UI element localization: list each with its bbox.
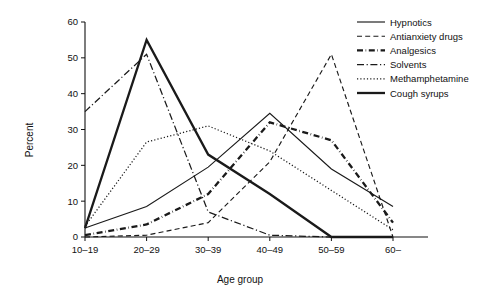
x-tick-label: 50–59 xyxy=(318,244,344,255)
chart-figure: 0102030405060 10–1920–2930–3940–4950–596… xyxy=(0,0,481,298)
legend-label-methamphetamine: Methamphetamine xyxy=(390,73,469,84)
series-line-solvents xyxy=(85,54,393,237)
x-tick-label: 10–19 xyxy=(72,244,98,255)
x-axis-title: Age group xyxy=(217,274,264,285)
series-line-antianxiety-drugs xyxy=(85,54,393,237)
chart-legend: HypnoticsAntianxiety drugsAnalgesicsSolv… xyxy=(357,17,469,99)
line-chart-canvas: 0102030405060 10–1920–2930–3940–4950–596… xyxy=(0,0,481,298)
x-tick-label: 40–49 xyxy=(257,244,283,255)
legend-label-antianxiety-drugs: Antianxiety drugs xyxy=(390,31,463,42)
series-line-cough-syrups xyxy=(85,40,393,237)
y-axis: 0102030405060 xyxy=(67,16,85,242)
y-tick-label: 30 xyxy=(67,124,78,135)
y-tick-label: 50 xyxy=(67,52,78,63)
y-tick-label: 20 xyxy=(67,160,78,171)
x-tick-label: 60– xyxy=(385,244,402,255)
series-lines xyxy=(85,40,393,237)
y-tick-label: 60 xyxy=(67,16,78,27)
legend-label-analgesics: Analgesics xyxy=(390,45,436,56)
x-tick-label: 20–29 xyxy=(133,244,159,255)
x-axis: 10–1920–2930–3940–4950–5960– xyxy=(72,237,428,255)
y-tick-label: 10 xyxy=(67,196,78,207)
y-axis-title: Percent xyxy=(24,123,35,158)
legend-label-hypnotics: Hypnotics xyxy=(390,17,432,28)
x-tick-label: 30–39 xyxy=(195,244,221,255)
series-line-hypnotics xyxy=(85,113,393,228)
legend-label-cough-syrups: Cough syrups xyxy=(390,88,449,99)
y-tick-label: 40 xyxy=(67,88,78,99)
y-tick-label: 0 xyxy=(73,231,78,242)
legend-label-solvents: Solvents xyxy=(390,59,427,70)
